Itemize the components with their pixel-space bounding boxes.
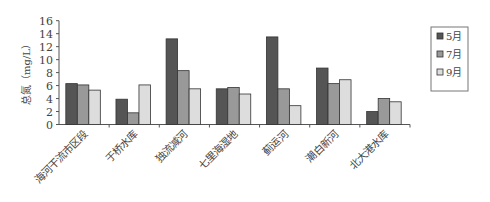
y-tick-label: 8 [46,67,53,80]
bar-chart: 0246810121416总氮（mg/L）海河干流市区段于桥水库独流减河七里海湿… [0,0,490,202]
bar [178,71,190,125]
x-tick-label: 北大港水库 [347,127,391,171]
bar [289,106,301,125]
bar [89,90,101,124]
bar [239,94,251,124]
bar [328,84,340,125]
y-tick-label: 14 [39,28,53,41]
y-tick-label: 6 [46,80,53,93]
x-tick-label: 于桥水库 [103,127,140,164]
legend-label: 9月 [446,67,462,78]
bar [66,84,78,125]
y-tick-label: 0 [46,119,53,132]
bar [139,85,151,125]
x-tick-label: 蓟运河 [260,127,290,157]
bar [127,113,139,125]
x-tick-label: 独流减河 [153,127,190,164]
x-tick-label: 海河干流市区段 [32,127,91,186]
legend-swatch [437,51,443,57]
chart-container: 0246810121416总氮（mg/L）海河干流市区段于桥水库独流减河七里海湿… [0,0,490,202]
bar [228,88,240,125]
bar [116,99,128,124]
y-tick-label: 12 [39,41,53,54]
y-tick-label: 4 [46,93,53,106]
bar [340,80,352,125]
y-tick-label: 16 [39,15,53,28]
legend-label: 5月 [446,31,462,42]
legend-swatch [437,69,443,75]
y-tick-label: 2 [46,106,53,119]
bar [77,85,89,125]
bar [367,112,379,125]
bar [378,99,390,125]
bar [278,89,290,125]
x-tick-label: 潮白新河 [303,127,340,164]
bar [317,68,329,124]
bar [390,102,402,125]
legend-swatch [437,33,443,39]
x-tick-label: 七里海湿地 [196,127,241,172]
bar [266,37,278,125]
y-axis-label: 总氮（mg/L） [20,39,32,105]
legend-label: 7月 [446,49,462,60]
bar [166,39,178,125]
y-tick-label: 10 [39,54,53,67]
bar [189,89,201,125]
bar [216,89,228,125]
